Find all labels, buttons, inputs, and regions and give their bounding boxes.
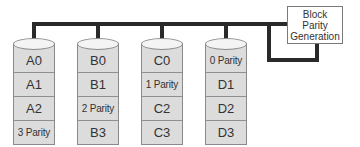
parity-block: 1 Parity xyxy=(142,72,182,96)
parity-loop-up xyxy=(315,43,319,62)
disk-body: B0 B1 2 Parity B3 xyxy=(77,43,119,145)
disk-cylinder-top xyxy=(77,38,119,50)
block-parity-generation-box: Block Parity Generation xyxy=(287,6,343,44)
disk-body: 0 Parity D1 D2 D3 xyxy=(205,43,247,145)
disk-block: D1 xyxy=(206,72,246,96)
disk-block: A2 xyxy=(14,96,54,120)
disk-block: B1 xyxy=(78,72,118,96)
disk-block: D2 xyxy=(206,96,246,120)
disk-block: B3 xyxy=(78,120,118,144)
disk-body: C0 1 Parity C2 C3 xyxy=(141,43,183,145)
parity-loop-down xyxy=(267,22,271,62)
disk-cylinder-top xyxy=(13,38,55,50)
disk-block: C2 xyxy=(142,96,182,120)
parity-block: 3 Parity xyxy=(14,120,54,144)
disk-body: A0 A1 A2 3 Parity xyxy=(13,43,55,145)
disk-block: D3 xyxy=(206,120,246,144)
parity-block: 2 Parity xyxy=(78,96,118,120)
disk-cylinder-top xyxy=(205,38,247,50)
disk-cylinder-top xyxy=(141,38,183,50)
pg-label-line-3: Generation xyxy=(290,31,339,42)
disk-block: C3 xyxy=(142,120,182,144)
pg-label-line-2: Parity xyxy=(302,20,328,31)
disk-block: A1 xyxy=(14,72,54,96)
pg-label-line-1: Block xyxy=(303,9,327,20)
parity-loop-bottom xyxy=(267,58,319,62)
